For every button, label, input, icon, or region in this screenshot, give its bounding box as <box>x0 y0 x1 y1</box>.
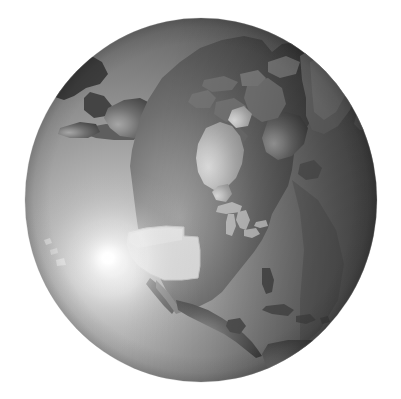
globe-scene: Rendered Globe - North America Western U… <box>0 0 401 399</box>
globe-svg[interactable] <box>0 0 401 399</box>
rim-falloff <box>25 18 377 382</box>
lighting-group <box>0 0 401 399</box>
globe-container[interactable] <box>0 0 401 399</box>
